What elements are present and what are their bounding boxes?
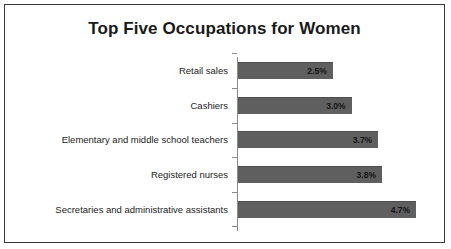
bar[interactable]: 4.7% (238, 201, 416, 218)
bar-row: Retail sales 2.5% (15, 53, 435, 88)
axis-tick (232, 192, 237, 193)
bar-row: Secretaries and administrative assistant… (15, 192, 435, 227)
axis-tick (232, 53, 237, 54)
category-label: Elementary and middle school teachers (15, 134, 233, 145)
bar-track: 3.0% (238, 88, 435, 123)
bar[interactable]: 3.8% (238, 166, 382, 183)
bar-value-label: 3.0% (326, 101, 351, 111)
axis-tick (232, 123, 237, 124)
bar-row: Cashiers 3.0% (15, 88, 435, 123)
bar-track: 3.8% (238, 157, 435, 192)
category-label: Registered nurses (15, 169, 233, 180)
bar[interactable]: 3.0% (238, 97, 352, 114)
category-label: Cashiers (15, 100, 233, 111)
bar-row: Registered nurses 3.8% (15, 157, 435, 192)
axis-tick (232, 88, 237, 89)
bar-track: 3.7% (238, 123, 435, 158)
chart-title: Top Five Occupations for Women (5, 19, 444, 39)
bar[interactable]: 2.5% (238, 62, 333, 79)
bar-row: Elementary and middle school teachers 3.… (15, 123, 435, 158)
bar-track: 4.7% (238, 192, 435, 227)
bar-value-label: 3.7% (353, 135, 378, 145)
axis-tick (232, 226, 237, 227)
bar[interactable]: 3.7% (238, 131, 378, 148)
category-label: Secretaries and administrative assistant… (15, 204, 233, 215)
category-label: Retail sales (15, 65, 233, 76)
bar-value-label: 4.7% (391, 205, 416, 215)
plot-area: Retail sales 2.5% Cashiers 3.0% Elementa… (15, 53, 435, 235)
chart-frame: Top Five Occupations for Women Retail sa… (4, 4, 445, 243)
axis-tick (232, 157, 237, 158)
bar-value-label: 2.5% (307, 66, 332, 76)
bar-value-label: 3.8% (357, 170, 382, 180)
bar-track: 2.5% (238, 53, 435, 88)
